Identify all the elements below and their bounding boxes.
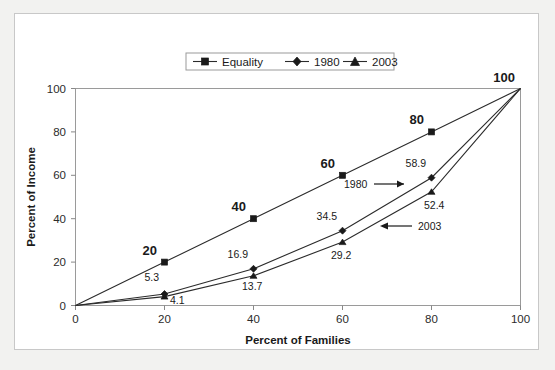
x-axis-title: Percent of Families xyxy=(245,334,350,346)
data-label-2003-80: 52.4 xyxy=(424,199,445,211)
arrow-right-icon xyxy=(397,181,404,188)
legend-label-equality: Equality xyxy=(222,56,263,68)
y-axis-title: Percent of Income xyxy=(25,147,37,247)
x-tick-label-20: 20 xyxy=(158,313,171,325)
data-label-equality-40: 40 xyxy=(232,199,246,214)
annotation-label-1980: 1980 xyxy=(344,178,368,190)
y-tick-label-20: 20 xyxy=(53,256,66,268)
data-label-2003-20: 4.1 xyxy=(170,294,185,306)
data-label-equality-100: 100 xyxy=(493,70,515,85)
chart-page: Equality 1980 2003 100 xyxy=(0,0,555,370)
x-axis: 0 20 40 60 80 100 Percent of Families xyxy=(72,306,530,347)
x-tick-label-40: 40 xyxy=(247,313,260,325)
marker-2003-60 xyxy=(339,239,346,245)
data-labels-2003: 4.1 13.7 29.2 52.4 xyxy=(170,199,445,306)
chart-legend: Equality 1980 2003 xyxy=(186,53,398,70)
data-label-2003-40: 13.7 xyxy=(242,280,263,292)
y-tick-label-40: 40 xyxy=(53,213,66,225)
y-axis: 100 80 60 40 20 0 Percent of Income xyxy=(25,83,76,312)
data-label-equality-80: 80 xyxy=(410,112,424,127)
arrow-left-icon xyxy=(380,223,388,230)
legend-label-2003: 2003 xyxy=(372,56,398,68)
marker-equality-40 xyxy=(251,216,257,222)
data-label-1980-20: 5.3 xyxy=(144,271,159,283)
data-label-1980-40: 16.9 xyxy=(228,248,249,260)
data-label-1980-60: 34.5 xyxy=(317,210,338,222)
annotation-label-2003: 2003 xyxy=(418,220,442,232)
x-tick-label-0: 0 xyxy=(72,313,78,325)
data-label-1980-80: 58.9 xyxy=(406,157,427,169)
marker-equality-80 xyxy=(429,129,435,135)
data-label-2003-60: 29.2 xyxy=(331,249,352,261)
data-label-equality-60: 60 xyxy=(321,156,335,171)
data-labels-equality: 20 40 60 80 100 xyxy=(143,70,515,258)
marker-1980-40 xyxy=(250,265,257,272)
legend-marker-square-icon xyxy=(202,58,209,65)
y-tick-label-80: 80 xyxy=(53,126,66,138)
x-tick-label-60: 60 xyxy=(336,313,349,325)
y-tick-label-0: 0 xyxy=(60,300,66,312)
marker-2003-40 xyxy=(250,273,257,279)
y-tick-label-60: 60 xyxy=(53,169,66,181)
data-label-equality-20: 20 xyxy=(143,243,157,258)
annotation-1980: 1980 xyxy=(344,178,404,190)
marker-1980-60 xyxy=(339,227,346,234)
legend-label-1980: 1980 xyxy=(314,56,340,68)
annotation-2003: 2003 xyxy=(380,220,442,232)
x-tick-label-80: 80 xyxy=(425,313,438,325)
series-line-equality xyxy=(76,89,521,306)
series-equality xyxy=(76,89,521,306)
x-tick-label-100: 100 xyxy=(511,313,530,325)
y-tick-label-100: 100 xyxy=(47,83,66,95)
marker-equality-20 xyxy=(162,259,168,265)
lorenz-curve-chart: Equality 1980 2003 100 xyxy=(0,0,555,370)
